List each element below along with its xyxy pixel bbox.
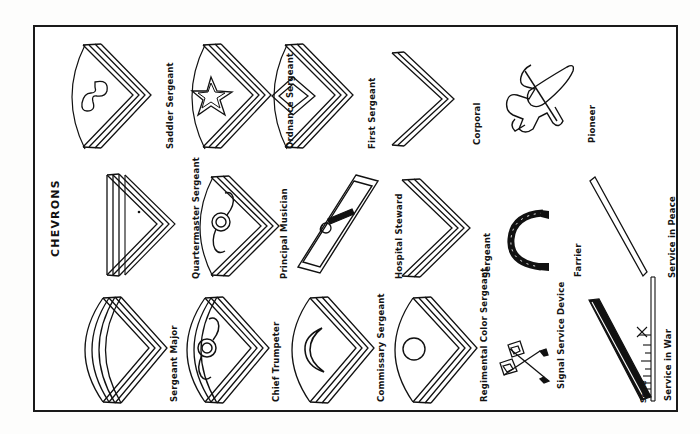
hospital-steward-icon	[290, 167, 400, 287]
commissary-sergeant-icon	[270, 292, 380, 410]
chevron-label: Signal Service Device	[556, 282, 566, 389]
farrier-icon	[497, 205, 577, 275]
page-title: CHEVRONS	[49, 179, 62, 257]
quartermaster-sergeant-icon	[95, 167, 195, 287]
chevron-label: Service in Peace	[667, 196, 677, 278]
scale-ruler-icon	[625, 275, 675, 405]
scale-label: Scale	[639, 380, 648, 403]
service-in-peace-icon	[585, 172, 675, 287]
chevron-label: Principal Musician	[279, 188, 289, 279]
saddler-sergeant-icon	[55, 37, 155, 157]
sergeant-icon	[390, 172, 490, 287]
signal-service-device-icon	[490, 337, 560, 397]
chevron-label: Saddler Sergeant	[165, 62, 175, 149]
chevron-label: Farrier	[573, 243, 583, 277]
plate-frame: Saddler Sergeant Ordnance Sergeant	[33, 25, 678, 412]
chevron-label: First Sergeant	[367, 77, 377, 149]
chevron-label: Regimental Color Sergeant	[479, 268, 489, 402]
chevron-label: Pioneer	[587, 105, 597, 143]
sergeant-major-icon	[63, 292, 173, 410]
chevron-label: Corporal	[472, 102, 482, 145]
chief-trumpeter-icon	[165, 292, 275, 410]
principal-musician-icon	[183, 167, 283, 287]
first-sergeant-icon	[257, 37, 357, 157]
pioneer-icon	[495, 55, 595, 145]
regimental-color-sergeant-icon	[373, 292, 483, 410]
corporal-icon	[380, 45, 480, 155]
chevron-plate: Saddler Sergeant Ordnance Sergeant	[0, 0, 700, 434]
